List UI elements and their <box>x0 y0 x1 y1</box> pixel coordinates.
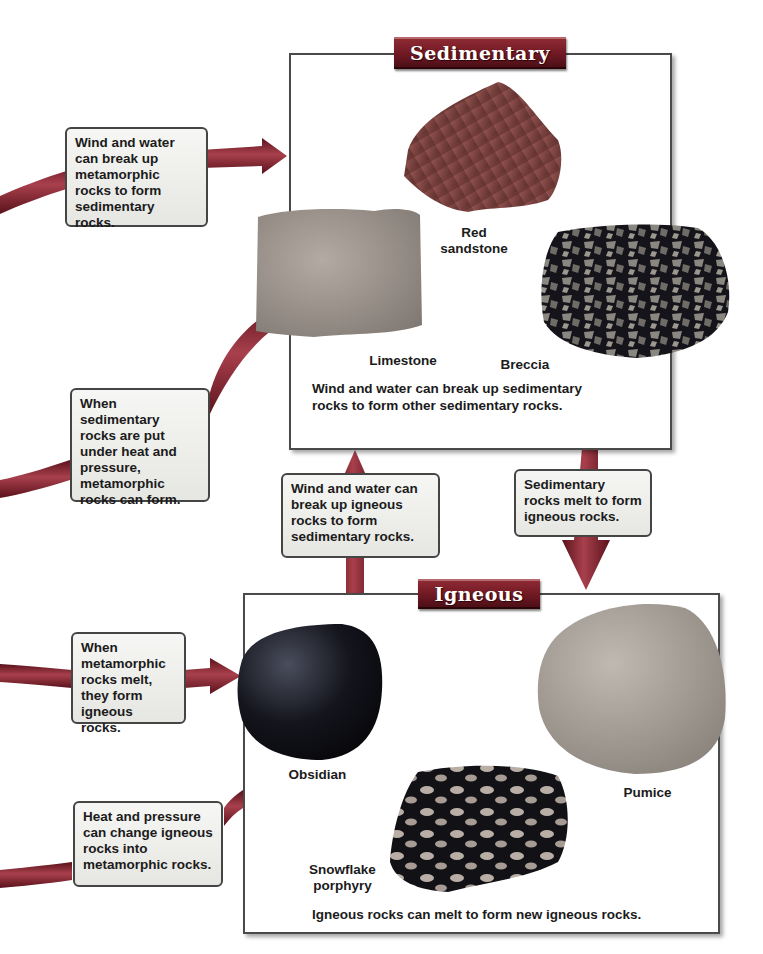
limestone-image <box>254 205 424 340</box>
limestone-label: Limestone <box>358 353 448 369</box>
caption-sedimentary-to-metamorphic: When sedimentary rocks are put under hea… <box>70 388 210 502</box>
caption-metamorphic-to-igneous: When metamorphic rocks melt, they form i… <box>71 632 186 724</box>
caption-igneous-to-sedimentary: Wind and water can break up igneous rock… <box>281 473 440 558</box>
caption-metamorphic-to-sedimentary: Wind and water can break up metamorphic … <box>65 127 208 227</box>
igneous-note: Igneous rocks can melt to form new igneo… <box>312 906 692 923</box>
breccia-image <box>538 222 733 360</box>
caption-sedimentary-to-igneous: Sedimentary rocks melt to form igneous r… <box>514 469 652 537</box>
obsidian-image <box>232 620 387 762</box>
igneous-banner: Igneous <box>418 579 540 609</box>
sedimentary-note: Wind and water can break up sedimentary … <box>312 380 652 414</box>
snowflake-porphyry-image <box>388 762 573 894</box>
breccia-label: Breccia <box>480 357 570 373</box>
red-sandstone-label: Red sandstone <box>424 225 524 257</box>
caption-igneous-to-metamorphic: Heat and pressure can change igneous roc… <box>73 801 223 887</box>
snowflake-porphyry-label: Snowflake porphyry <box>300 862 385 894</box>
obsidian-label: Obsidian <box>275 767 360 783</box>
pumice-label: Pumice <box>610 785 685 801</box>
pumice-image <box>535 598 730 775</box>
red-sandstone-image <box>398 80 566 214</box>
sedimentary-banner: Sedimentary <box>394 37 566 69</box>
